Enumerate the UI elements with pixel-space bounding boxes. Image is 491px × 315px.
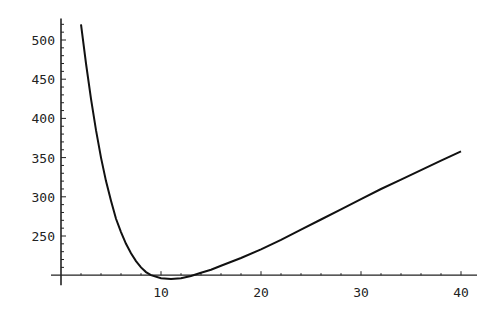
x-tick-label: 20 [253,285,269,300]
y-tick-label: 250 [32,229,55,244]
x-tick-label: 30 [353,285,369,300]
x-tick-label: 40 [453,285,469,300]
y-tick-label: 450 [32,72,55,87]
axis-ticks [61,24,461,275]
axes [51,18,477,285]
y-tick-label: 500 [32,33,55,48]
y-tick-label: 400 [32,111,55,126]
line-chart: 10203040250300350400450500 [0,0,491,315]
x-tick-label: 10 [153,285,169,300]
tick-labels: 10203040250300350400450500 [32,33,469,300]
data-curve [81,24,461,279]
y-tick-label: 300 [32,190,55,205]
y-tick-label: 350 [32,151,55,166]
